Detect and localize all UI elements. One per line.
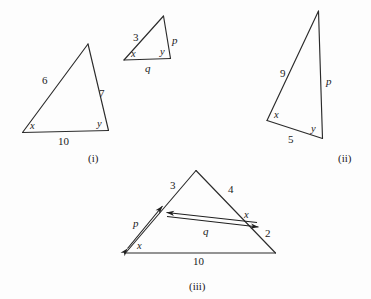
figure-drawing-canvas [0, 0, 371, 299]
triangle-iii-angle-inner-label: x [244, 210, 249, 221]
triangle-small-angle-right-label: y [160, 47, 165, 58]
triangle-ii-angle-right-label: y [311, 124, 316, 135]
triangle-iii-shape [126, 171, 276, 254]
geometry-figure: 6 7 10 x y (i) 3 p q x y 9 p 5 x y (ii) … [0, 0, 371, 299]
triangle-iii-base-label: 10 [193, 256, 204, 267]
triangle-small-base-label: q [145, 63, 151, 74]
triangle-iii-arrow-q-label: q [203, 226, 209, 237]
triangle-iii-side-upper-left-label: 3 [170, 180, 176, 191]
triangle-i-side-right-label: 7 [99, 88, 105, 99]
triangle-small-side-left [124, 16, 164, 60]
triangle-i-angle-left-label: x [30, 121, 35, 132]
triangle-i-shape [23, 44, 109, 133]
triangle-iii-side-upper-right [196, 171, 276, 254]
triangle-i-base-label: 10 [58, 136, 69, 147]
caption-iii: (iii) [189, 281, 206, 292]
triangle-iii-angle-left-label: x [137, 241, 142, 252]
triangle-small-side-left-label: 3 [133, 32, 139, 43]
triangle-ii-angle-left-label: x [274, 110, 279, 121]
triangle-ii-base-label: 5 [288, 134, 294, 145]
triangle-iii-side-lower-right-label: 2 [265, 228, 271, 239]
triangle-iii-side-upper-right-label: 4 [228, 184, 234, 195]
triangle-i-angle-right-label: y [97, 119, 102, 130]
triangle-iii-arrow-p-label: p [133, 218, 139, 229]
caption-ii: (ii) [338, 153, 351, 164]
triangle-ii-side-left-label: 9 [280, 68, 286, 79]
triangle-i-base [23, 131, 109, 133]
triangle-ii-side-left [267, 11, 319, 121]
triangle-small-side-right-label: p [172, 35, 178, 46]
triangle-i-side-left-label: 6 [42, 75, 48, 86]
triangle-ii-side-right-label: p [326, 76, 332, 87]
triangle-small-angle-left-label: x [131, 49, 136, 60]
triangle-ii-side-right [319, 11, 323, 139]
caption-i: (i) [88, 153, 98, 164]
